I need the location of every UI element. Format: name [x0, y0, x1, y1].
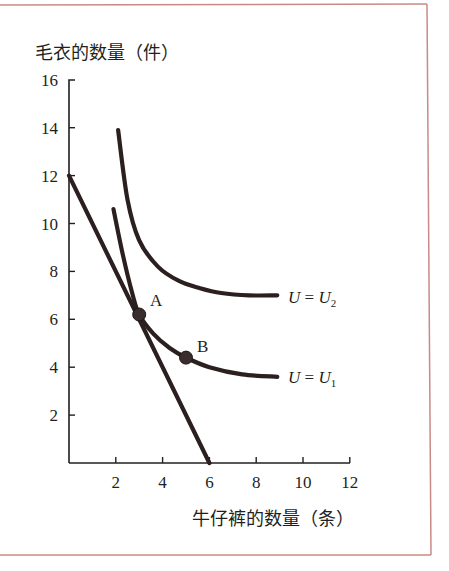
y-axis-title: 毛衣的数量（件） — [35, 42, 179, 63]
plot-series — [69, 130, 277, 463]
y-tick-label: 14 — [41, 119, 59, 138]
x-tick-label: 10 — [295, 473, 312, 492]
u2-label: U = U2 — [288, 288, 336, 309]
y-tick-label: 16 — [41, 71, 58, 90]
x-tick-label: 2 — [112, 473, 121, 492]
y-tick-label: 12 — [41, 167, 58, 186]
u1-label: U = U1 — [288, 368, 336, 389]
x-tick-label: 4 — [158, 473, 167, 492]
indifference-curve — [118, 130, 277, 295]
y-tick-label: 8 — [50, 262, 59, 281]
x-tick-label: 8 — [252, 473, 261, 492]
point-b-label: B — [197, 337, 208, 356]
y-tick-label: 2 — [50, 406, 59, 425]
point-b-marker — [180, 351, 193, 364]
point-a-marker — [133, 308, 146, 321]
y-tick-label: 4 — [50, 358, 59, 377]
y-tick-label: 10 — [41, 215, 58, 234]
x-tick-label: 6 — [205, 473, 214, 492]
plot-points — [133, 308, 193, 364]
chart-figure: 毛衣的数量（件） 246810121416 24681012 A B U = U… — [0, 0, 449, 571]
x-axis-title: 牛仔裤的数量（条） — [192, 508, 354, 529]
y-ticks: 246810121416 — [41, 71, 75, 425]
point-a-label: A — [150, 291, 163, 310]
figure-frame — [0, 4, 431, 555]
x-tick-label: 12 — [341, 473, 358, 492]
axes — [69, 80, 350, 463]
y-tick-label: 6 — [50, 310, 59, 329]
